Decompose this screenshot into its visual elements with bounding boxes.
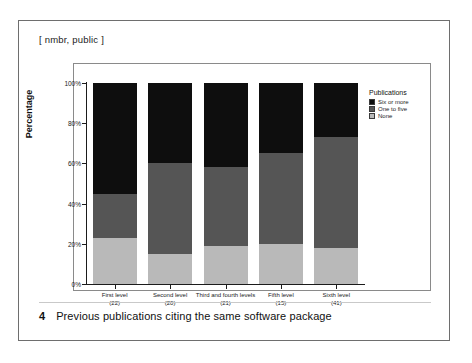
plot-area [87,83,364,284]
bar-segment-none[interactable] [204,246,248,284]
x-axis-category-label: Sixth level(41) [323,291,350,307]
legend: Publications Six or moreOne to fiveNone [369,89,447,120]
bar-segment-one-to-five[interactable] [314,137,358,248]
bar-segment-one-to-five[interactable] [204,167,248,245]
legend-item-label: One to five [378,106,407,112]
figure-caption: 4 Previous publications citing the same … [39,310,332,322]
x-axis-category-label: First level(22) [102,291,128,307]
category-count: (15) [268,299,294,307]
x-axis-category-label: Third and fourth levels(21) [196,291,255,307]
category-name: Third and fourth levels [196,292,255,298]
figure-frame: [ nmbr, public ] Percentage 0%20%40%60%8… [18,20,450,341]
bar-segment-six-or-more[interactable] [259,83,303,153]
y-axis-tick-label-wrap: 20% [33,244,81,245]
legend-swatch-icon [369,99,375,105]
x-axis-category-label: Fifth level(15) [268,291,294,307]
bar-segment-none[interactable] [259,244,303,284]
category-count: (41) [323,299,350,307]
y-axis-tick-label: 20% [37,240,81,247]
x-axis-tick [281,285,282,289]
bar-segment-one-to-five[interactable] [93,194,137,238]
y-axis-tick-label: 0% [37,281,81,288]
caption-divider [39,302,431,303]
category-count: (21) [196,299,255,307]
y-axis-tick [82,284,87,285]
bar-segment-none[interactable] [93,238,137,284]
bar-segment-none[interactable] [148,254,192,284]
legend-swatch-icon [369,106,375,112]
category-name: Fifth level [268,292,294,298]
bar-stack[interactable] [314,83,358,284]
bar-segment-six-or-more[interactable] [93,83,137,194]
figure-subtitle: [ nmbr, public ] [39,34,104,45]
x-axis-tick [115,285,116,289]
y-axis-tick-label-wrap: 40% [33,204,81,205]
bar-segment-six-or-more[interactable] [204,83,248,167]
bar-segment-none[interactable] [314,248,358,284]
bar-stack[interactable] [148,83,192,284]
y-axis-tick-label: 60% [37,160,81,167]
caption-text: Previous publications citing the same so… [56,310,332,322]
bar-segment-one-to-five[interactable] [259,153,303,243]
x-axis-tick [336,285,337,289]
category-name: Sixth level [323,292,350,298]
bar-stack[interactable] [204,83,248,284]
y-axis-tick-label: 80% [37,120,81,127]
caption-number: 4 [39,310,45,322]
y-axis-tick-label-wrap: 100% [33,83,81,84]
y-axis-tick-label-wrap: 80% [33,123,81,124]
y-axis-tick-label-wrap: 0% [33,284,81,285]
legend-title: Publications [369,89,447,96]
x-axis-tick [170,285,171,289]
bar-segment-one-to-five[interactable] [148,163,192,253]
category-name: Second level [153,292,187,298]
y-axis-tick-label-wrap: 60% [33,163,81,164]
category-count: (22) [102,299,128,307]
y-axis-tick-label: 40% [37,200,81,207]
legend-item[interactable]: One to five [369,106,447,112]
bar-segment-six-or-more[interactable] [148,83,192,163]
legend-item-label: Six or more [378,99,409,105]
legend-entries: Six or moreOne to fiveNone [369,99,447,119]
bar-stack[interactable] [93,83,137,284]
bar-segment-six-or-more[interactable] [314,83,358,137]
category-name: First level [102,292,128,298]
bar-stack[interactable] [259,83,303,284]
x-axis-tick [226,285,227,289]
x-axis-category-label: Second level(20) [153,291,187,307]
legend-item-label: None [378,113,392,119]
category-count: (20) [153,299,187,307]
legend-item[interactable]: Six or more [369,99,447,105]
legend-swatch-icon [369,113,375,119]
y-axis-tick-label: 100% [37,80,81,87]
legend-item[interactable]: None [369,113,447,119]
